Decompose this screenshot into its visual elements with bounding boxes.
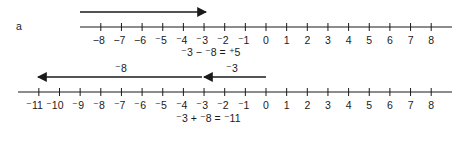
tick-label--7: ⁻7 bbox=[114, 99, 126, 111]
tick-label-8: 8 bbox=[428, 34, 434, 46]
tick-label-8: 8 bbox=[428, 99, 434, 111]
tick-label--7: −7 bbox=[113, 34, 125, 46]
tick-label--6: ⁻6 bbox=[134, 99, 146, 111]
tick-label-0: 0 bbox=[263, 34, 269, 46]
tick-label--11: ⁻11 bbox=[26, 99, 43, 111]
tick-label--1: ⁻1 bbox=[238, 34, 250, 46]
tick-label-3: 3 bbox=[325, 34, 331, 46]
tick-label--9: ⁻9 bbox=[72, 99, 84, 111]
tick-label-1: 1 bbox=[284, 34, 290, 46]
tick-label-2: 2 bbox=[304, 34, 310, 46]
number-line-diagram: a −8−7−6⁻5⁻4⁻3⁻2⁻1012345678 ⁻3 − ⁻8 = ⁺5… bbox=[0, 0, 463, 141]
tick-label-4: 4 bbox=[346, 99, 352, 111]
tick-label-5: 5 bbox=[366, 34, 372, 46]
tick-label-4: 4 bbox=[346, 34, 352, 46]
tick-label--8: ⁻8 bbox=[93, 99, 105, 111]
bottom-tick-labels: ⁻11⁻10⁻9⁻8⁻7⁻6⁻5⁻4⁻3⁻2⁻1012345678 bbox=[26, 99, 434, 111]
figure-label: a bbox=[16, 20, 22, 32]
tick-label--2: ⁻2 bbox=[217, 34, 229, 46]
arrow-label-minus-8: ⁻8 bbox=[115, 62, 127, 74]
bottom-number-line: ⁻11⁻10⁻9⁻8⁻7⁻6⁻5⁻4⁻3⁻2⁻1012345678 bbox=[18, 88, 452, 111]
tick-label-0: 0 bbox=[263, 99, 269, 111]
tick-label-3: 3 bbox=[325, 99, 331, 111]
bottom-equation: ⁻3 + ⁻8 = ⁻11 bbox=[176, 112, 241, 124]
tick-label-2: 2 bbox=[304, 99, 310, 111]
tick-label--3: ⁻3 bbox=[196, 34, 208, 46]
tick-label-1: 1 bbox=[284, 99, 290, 111]
tick-label-6: 6 bbox=[387, 34, 393, 46]
tick-label--4: ⁻4 bbox=[176, 99, 188, 111]
top-tick-labels: −8−7−6⁻5⁻4⁻3⁻2⁻1012345678 bbox=[93, 34, 434, 46]
tick-label--6: −6 bbox=[134, 34, 146, 46]
tick-label--5: ⁻5 bbox=[155, 99, 167, 111]
tick-label-6: 6 bbox=[387, 99, 393, 111]
tick-label-5: 5 bbox=[366, 99, 372, 111]
tick-label--8: −8 bbox=[93, 34, 105, 46]
arrow-label-minus-3: ⁻3 bbox=[226, 62, 238, 74]
tick-label--2: ⁻2 bbox=[217, 99, 229, 111]
top-equation: ⁻3 − ⁻8 = ⁺5 bbox=[181, 46, 241, 58]
tick-label-7: 7 bbox=[408, 34, 414, 46]
tick-label--1: ⁻1 bbox=[238, 99, 250, 111]
tick-label--4: ⁻4 bbox=[176, 34, 188, 46]
tick-label--10: ⁻10 bbox=[46, 99, 64, 111]
tick-label-7: 7 bbox=[408, 99, 414, 111]
top-number-line: −8−7−6⁻5⁻4⁻3⁻2⁻1012345678 bbox=[80, 23, 452, 46]
tick-label--3: ⁻3 bbox=[196, 99, 208, 111]
tick-label--5: ⁻5 bbox=[155, 34, 167, 46]
